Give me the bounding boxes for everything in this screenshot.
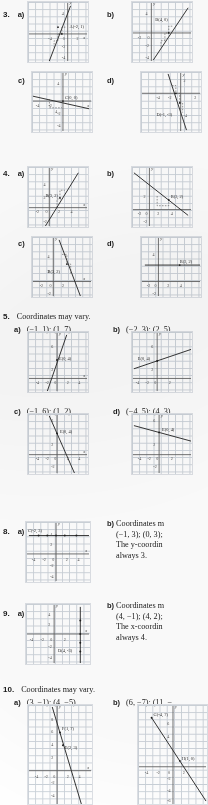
item-8-part-b-block: b) Coordinates m (−1, 3); (0, 3); The y-… [107, 519, 208, 561]
item-9b-line-4: always 4. [116, 633, 208, 644]
svg-text:4: 4 [171, 211, 173, 216]
svg-text:0: 0 [54, 456, 56, 461]
svg-text:6: 6 [51, 729, 53, 734]
svg-text:-4: -4 [145, 770, 148, 775]
graph-3a: A(-2, 1) -4 0 2 4 -2 -4 y x [27, 1, 89, 63]
svg-text:2: 2 [50, 542, 52, 547]
item-9b-line-3: The x-coordin [116, 622, 208, 633]
svg-text:2: 2 [183, 770, 185, 775]
graph-9a: D(4, -3) -4 -2 0 2 4 2 -2 -4 y x [25, 603, 91, 665]
item-9-number: 9. [3, 609, 10, 618]
svg-text:-2: -2 [153, 291, 156, 296]
svg-text:2: 2 [184, 78, 186, 83]
svg-text:-4: -4 [36, 456, 39, 461]
svg-text:x: x [82, 202, 85, 207]
svg-text:-2: -2 [50, 563, 53, 568]
svg-text:2: 2 [157, 211, 159, 216]
item-4-part-d-label: d) [107, 239, 114, 248]
item-5-part-c-label: c) [14, 407, 21, 416]
graph-3a-point-label: A(-2, 1) [70, 24, 85, 30]
svg-text:x: x [82, 373, 85, 378]
svg-text:-2: -2 [51, 780, 54, 785]
svg-text:x: x [86, 765, 89, 770]
svg-text:-2: -2 [168, 95, 171, 100]
item-9-part-b-block: b) Coordinates m (4, −1); (4, 2); The x-… [107, 601, 208, 643]
svg-text:0: 0 [53, 774, 55, 779]
svg-text:4: 4 [153, 252, 155, 257]
item-9b-line-2: (4, −1); (4, 2); [116, 612, 208, 623]
item-3-part-c-row: c) [18, 69, 25, 87]
svg-text:-4: -4 [57, 123, 60, 128]
svg-text:-4: -4 [32, 557, 35, 562]
graph-5c: E(0, 4) -4 -2 0 2 4 6 2 -2 x [27, 413, 89, 475]
svg-text:-2: -2 [138, 211, 141, 216]
svg-text:y: y [158, 332, 161, 336]
svg-text:2: 2 [144, 194, 146, 199]
graph-4a: B(3, 2) -2 0 2 4 4 2 -2 y x [27, 166, 89, 228]
graph-3c-point-label: C(0, 0) [65, 95, 78, 101]
svg-text:-4: -4 [48, 655, 51, 660]
svg-text:-2: -2 [57, 111, 60, 116]
svg-text:-2: -2 [44, 774, 47, 779]
graph-4c: B(3, 2) -2 0 2 4 2 -2 y x [31, 236, 93, 298]
graph-10a-point-label-1: F(1, 7) [62, 726, 75, 732]
item-3-number-row: 3. a) [3, 3, 24, 21]
graph-5d: E(0, 4) -4 -2 0 2 6 2 -2 y [131, 413, 193, 475]
graph-5c-point-label: E(0, 4) [60, 429, 73, 435]
svg-text:x: x [84, 628, 87, 633]
graph-3d: D(-1, -3) -4 -2 2 2 -4 y [140, 71, 202, 133]
svg-text:2: 2 [67, 774, 69, 779]
svg-text:6: 6 [51, 418, 53, 423]
svg-text:8: 8 [51, 717, 53, 722]
svg-text:6: 6 [51, 344, 53, 349]
svg-text:2: 2 [51, 755, 53, 760]
item-5-part-a-label: a) [14, 325, 21, 334]
graph-3c: C(0, 0) -4 -2 4 4 -2 -4 y x [31, 71, 93, 133]
svg-text:4: 4 [47, 254, 49, 259]
svg-text:y: y [58, 332, 61, 336]
svg-text:-4: -4 [50, 574, 53, 579]
svg-text:-2: -2 [40, 283, 43, 288]
item-4-part-a-label: a) [18, 169, 25, 178]
graph-5a: E(0, 4) -4 -2 0 2 4 6 2 y x [27, 331, 89, 393]
graph-4d-point-label: B(3, 2) [180, 259, 193, 265]
item-3-part-a-label: a) [18, 10, 25, 19]
svg-text:-2: -2 [144, 219, 147, 224]
item-9-part-b-label: b) [107, 601, 114, 612]
svg-text:0: 0 [49, 283, 51, 288]
svg-text:-4: -4 [35, 774, 38, 779]
svg-text:2: 2 [51, 442, 53, 447]
graph-10a-point-label-2: E(2, 3) [65, 745, 78, 751]
graph-3b-point-label: B(4, 0) [155, 17, 168, 23]
item-4-number: 4. [3, 169, 10, 178]
svg-text:y: y [54, 237, 57, 241]
graph-4b: B(3, 2) -2 0 2 4 2 -2 y [131, 166, 193, 228]
item-3-part-c-label: c) [18, 76, 25, 85]
item-4-part-b-row: b) [107, 162, 114, 180]
graph-3b: B(4, 0) -2 0 4 -2 -4 y [131, 1, 193, 63]
svg-text:-2: -2 [43, 219, 46, 224]
svg-text:-2: -2 [45, 380, 48, 385]
item-8-part-a-label: a) [18, 527, 25, 536]
svg-text:4: 4 [48, 612, 50, 617]
item-9b-line-1: Coordinates m [116, 601, 164, 612]
svg-text:6: 6 [151, 344, 153, 349]
item-5-part-d-label: d) [113, 407, 120, 416]
svg-text:0: 0 [63, 36, 65, 41]
svg-text:-2: -2 [147, 456, 150, 461]
graph-3d-point-label: D(-1, -3) [156, 112, 172, 118]
item-3-part-d-label: d) [107, 76, 114, 85]
svg-text:4: 4 [78, 774, 80, 779]
svg-text:2: 2 [169, 380, 171, 385]
svg-text:-4: -4 [51, 793, 54, 798]
svg-text:4: 4 [57, 81, 59, 86]
svg-text:2: 2 [67, 380, 69, 385]
svg-text:y: y [64, 72, 67, 76]
item-8-number-row: 8. a) [3, 520, 24, 538]
svg-text:2: 2 [153, 442, 155, 447]
svg-text:4: 4 [167, 734, 169, 739]
item-4-part-c-label: c) [18, 239, 25, 248]
svg-text:y: y [152, 2, 155, 6]
item-4-part-c-row: c) [18, 232, 25, 250]
svg-text:2: 2 [66, 557, 68, 562]
